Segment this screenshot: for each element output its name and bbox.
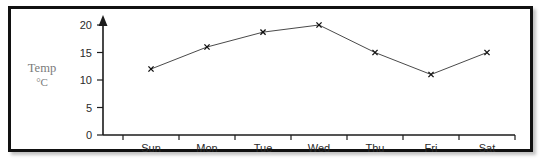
- chart-frame: Temp °C 0 5 10 15 20: [8, 6, 533, 152]
- x-tick-label-tue: Tue: [254, 142, 273, 154]
- chart-svg: Temp °C 0 5 10 15 20: [11, 9, 536, 155]
- y-tick-label-5: 5: [86, 102, 92, 114]
- y-tick-label-10: 10: [80, 74, 92, 86]
- line-chart: Temp °C 0 5 10 15 20: [11, 9, 536, 155]
- x-tick-label-fri: Fri: [425, 142, 438, 154]
- x-tick-label-wed: Wed: [308, 142, 330, 154]
- screenshot-root: Temp °C 0 5 10 15 20: [0, 0, 542, 159]
- y-tick-label-15: 15: [80, 47, 92, 59]
- temperature-series-line: [151, 25, 487, 75]
- x-tick-label-sat: Sat: [479, 142, 496, 154]
- x-tick-label-sun: Sun: [141, 142, 161, 154]
- x-tick-label-mon: Mon: [196, 142, 217, 154]
- y-tick-label-0: 0: [86, 129, 92, 141]
- y-axis-label: Temp: [28, 61, 56, 75]
- x-tick-label-thu: Thu: [366, 142, 385, 154]
- y-axis-arrow-icon: [99, 15, 108, 26]
- y-tick-label-20: 20: [80, 19, 92, 31]
- y-axis-unit-label: °C: [36, 76, 48, 88]
